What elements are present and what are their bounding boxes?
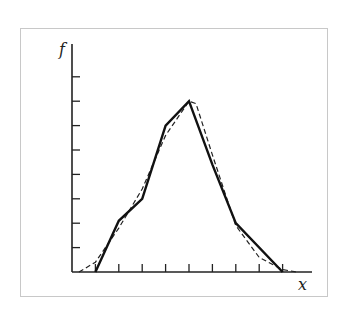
y-axis-label: f bbox=[59, 40, 65, 59]
solid-polygon bbox=[95, 101, 282, 272]
dashed-curve bbox=[79, 101, 297, 272]
x-axis-label: x bbox=[298, 275, 307, 294]
chart-plot bbox=[0, 0, 340, 312]
y-axis bbox=[72, 44, 80, 272]
